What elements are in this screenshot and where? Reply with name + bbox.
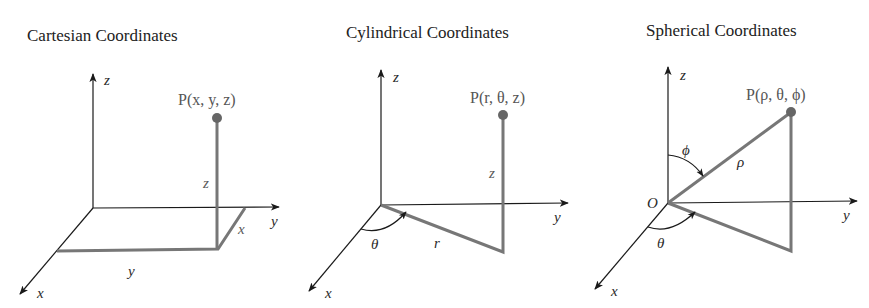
radius-label: r [434, 235, 440, 251]
point-p [786, 107, 796, 117]
coordinate-systems-diagram: Cartesian Coordinates z y x P(x, y, z) z… [0, 0, 869, 308]
depth-label: x [237, 221, 245, 237]
z-axis-label: z [392, 69, 399, 85]
x-axis-label: x [324, 285, 332, 301]
point-label: P(ρ, θ, ϕ) [746, 86, 806, 104]
y-axis-label: y [841, 207, 850, 223]
panel-cartesian: Cartesian Coordinates z y x P(x, y, z) z… [20, 26, 279, 301]
panel-spherical: Spherical Coordinates z y x O P(ρ, θ, ϕ)… [595, 21, 857, 299]
z-axis-label: z [103, 72, 110, 88]
height-label: z [202, 175, 209, 191]
projection-and-height-lines [668, 114, 791, 251]
panel-cylindrical: Cylindrical Coordinates z y x P(r, θ, z)… [309, 23, 568, 301]
y-axis-label: y [269, 213, 278, 229]
y-axis [668, 201, 857, 203]
width-label: y [126, 263, 135, 279]
rho-label: ρ [736, 154, 744, 170]
z-axis-label: z [679, 67, 686, 83]
point-p [212, 113, 222, 123]
rho-line [668, 113, 790, 203]
point-p [498, 110, 508, 120]
point-label: P(x, y, z) [178, 91, 236, 109]
panel-title: Cylindrical Coordinates [346, 23, 509, 42]
x-axis-label: x [610, 283, 618, 299]
x-axis-label: x [36, 285, 44, 301]
panel-title: Spherical Coordinates [646, 21, 797, 40]
phi-arc [668, 155, 703, 176]
point-label: P(r, θ, z) [470, 89, 525, 107]
y-axis-label: y [552, 209, 561, 225]
theta-label: θ [657, 235, 665, 251]
panel-title: Cartesian Coordinates [27, 26, 178, 45]
y-axis [381, 203, 568, 205]
theta-arc [648, 212, 695, 229]
theta-label: θ [371, 236, 379, 252]
radius-and-height-lines [381, 116, 503, 252]
origin-label: O [647, 195, 658, 211]
y-axis [93, 207, 279, 208]
phi-label: ϕ [682, 142, 690, 158]
height-label: z [488, 165, 495, 181]
